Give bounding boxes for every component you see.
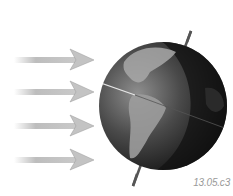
north-pole-axis-tip — [187, 31, 191, 42]
earth-globe-icon — [98, 40, 233, 175]
sun-rays-earth-diagram — [0, 0, 233, 196]
figure-label: 13.05.c3 — [193, 177, 230, 188]
sun-ray-arrow — [14, 115, 94, 136]
sun-ray-arrow — [14, 49, 94, 70]
sun-ray-arrow — [14, 149, 94, 170]
sun-ray-arrow — [14, 81, 94, 102]
